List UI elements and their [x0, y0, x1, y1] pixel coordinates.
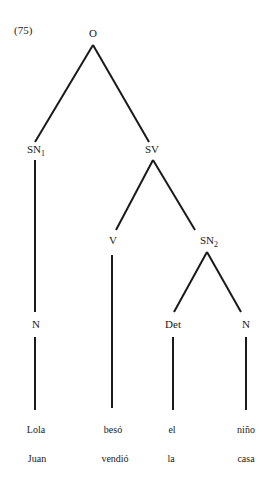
branch-sv-v	[116, 160, 153, 230]
node-sn1-subscript: 1	[41, 149, 45, 158]
node-n-right: N	[242, 318, 250, 330]
node-n-left: N	[32, 318, 40, 330]
example-number: (75)	[14, 24, 32, 36]
leaf-word: niño	[237, 424, 255, 435]
leaf-word: besó	[104, 424, 122, 435]
tree-branches	[0, 0, 272, 489]
node-sn2: SN2	[200, 234, 218, 246]
node-sn2-base: SN	[200, 234, 214, 246]
node-det: Det	[165, 318, 181, 330]
branch-o-sv	[93, 45, 149, 142]
node-sn1: SN1	[27, 143, 45, 155]
leaf-word: el	[168, 424, 175, 435]
node-v: V	[109, 234, 117, 246]
leaf-word: Lola	[27, 424, 45, 435]
branch-sn2-det	[174, 252, 207, 312]
branch-sn2-n	[207, 252, 241, 312]
node-sn1-base: SN	[27, 143, 41, 155]
node-sv: SV	[145, 143, 159, 155]
leaf-word-alt: vendió	[101, 453, 128, 464]
leaf-word-alt: Juan	[28, 453, 46, 464]
leaf-word-alt: casa	[237, 453, 254, 464]
leaf-word-alt: la	[167, 453, 174, 464]
branch-o-sn1	[35, 45, 93, 142]
branch-sv-sn2	[153, 160, 195, 230]
node-o: O	[89, 27, 97, 39]
node-sn2-subscript: 2	[214, 240, 218, 249]
